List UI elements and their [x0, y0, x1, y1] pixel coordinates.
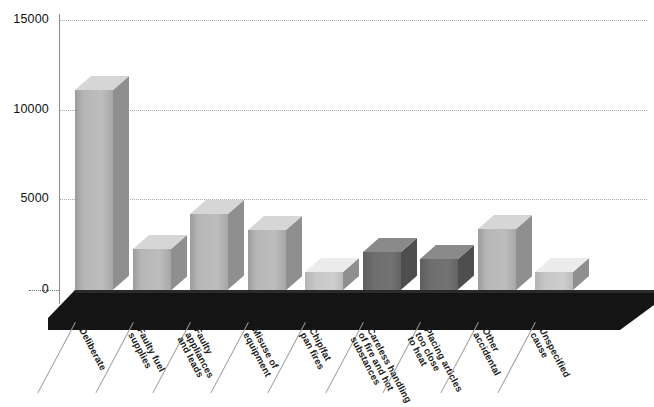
- category-label-8: Otheraccidental: [472, 326, 511, 377]
- bar-front-face: [133, 249, 171, 290]
- bar-7: [420, 245, 474, 290]
- bar-5: [305, 258, 359, 290]
- bar-front-face: [75, 90, 113, 290]
- category-label-6: Careless handlingof fire and hotsubstanc…: [348, 326, 413, 407]
- bar-front-face: [420, 259, 458, 290]
- bar-4: [248, 216, 302, 290]
- bar-front-face: [478, 229, 516, 290]
- bar-front-face: [190, 214, 228, 290]
- category-label-line: Deliberate: [78, 326, 109, 372]
- bar-9: [535, 258, 589, 290]
- bar-side-face: [113, 76, 129, 290]
- category-label-5: Chip/fatpan fires: [299, 326, 335, 371]
- bar-3: [190, 200, 244, 290]
- bar-top-face: [305, 258, 359, 272]
- bar-top-face: [75, 76, 129, 90]
- category-label-3: Faultyappliancesand leads: [176, 326, 225, 384]
- leader-line-1: [37, 322, 75, 393]
- bar-2: [133, 235, 187, 290]
- category-label-9: Unspecifiedcause: [529, 326, 572, 384]
- bar-front-face: [305, 272, 343, 290]
- bar-front-face: [363, 252, 401, 290]
- bar-8: [478, 215, 532, 290]
- bar-top-face: [133, 235, 187, 249]
- bar-top-face: [478, 215, 532, 229]
- bar-top-face: [535, 258, 589, 272]
- bar-top-face: [363, 238, 417, 252]
- bar-top-face: [190, 200, 244, 214]
- bar-front-face: [535, 272, 573, 290]
- bar-top-face: [248, 216, 302, 230]
- bar-1: [75, 76, 129, 290]
- bar-6: [363, 238, 417, 290]
- category-label-4: Misuse ofequipment: [242, 326, 282, 378]
- bar-chart: 15000 10000 5000 0 DeliberateFaulty fuel…: [0, 0, 654, 407]
- category-label-1: Deliberate: [78, 326, 109, 372]
- bar-top-face: [420, 245, 474, 259]
- category-label-2: Faulty fuelsupplies: [127, 326, 167, 378]
- category-labels: DeliberateFaulty fuelsuppliesFaultyappli…: [0, 300, 654, 407]
- bar-front-face: [248, 230, 286, 290]
